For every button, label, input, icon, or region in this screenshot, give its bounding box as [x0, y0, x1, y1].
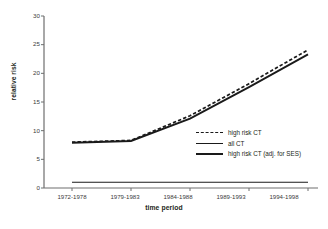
axis-lines: [44, 16, 318, 188]
legend-swatch-dashed-icon: [196, 129, 223, 137]
legend-label: high risk CT: [228, 130, 262, 136]
legend-swatch-thick-line-icon: [196, 150, 223, 158]
legend-label: all CT: [228, 141, 244, 147]
data-series-layer: [72, 50, 308, 182]
legend-item-all-ct: all CT: [196, 139, 301, 150]
chart-legend: high risk CT all CT high risk CT (adj. f…: [196, 128, 301, 160]
plot-area: [0, 0, 328, 229]
legend-label: high risk CT (adj. for SES): [228, 151, 301, 157]
chart-container: relative risk 30 25 20 15 10 5 0 1972-19…: [0, 0, 328, 229]
legend-item-high-risk-ct: high risk CT: [196, 128, 301, 139]
legend-item-high-risk-ct-adj: high risk CT (adj. for SES): [196, 149, 301, 160]
legend-swatch-thin-line-icon: [196, 140, 223, 148]
